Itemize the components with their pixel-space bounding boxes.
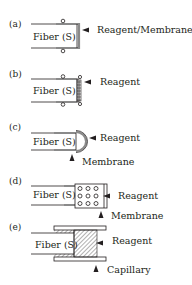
fiber-label: Fiber (S) <box>33 189 76 200</box>
o-ring-tip-top-icon <box>78 75 81 78</box>
panel-d: (d) Fiber (S) Reagent Membrane <box>9 176 164 221</box>
adhesive-top <box>54 230 74 233</box>
panel-e: (e) Fiber (S) Reagent Capillary <box>9 222 152 275</box>
annotation-reagent: Reagent <box>118 190 158 201</box>
panel-a: (a) Fiber (S) Reagent/Membrane <box>9 19 192 53</box>
o-ring-tip-bottom-icon <box>78 102 81 105</box>
reagent-chamber <box>75 184 107 208</box>
reagent-beads <box>78 81 80 101</box>
panel-letter: (a) <box>9 19 21 29</box>
annotation-reagent: Reagent <box>112 235 152 246</box>
annotation-reagent-membrane: Reagent/Membrane <box>97 24 192 35</box>
o-ring-top-icon <box>61 19 65 23</box>
o-ring-bottom-icon <box>61 49 65 53</box>
o-ring-bottom-icon <box>61 103 65 107</box>
arrow-up-icon <box>99 211 104 218</box>
arrow-pointer-icon <box>84 80 91 85</box>
panel-letter: (b) <box>9 69 22 79</box>
membrane-dome <box>76 132 86 151</box>
panel-letter: (d) <box>9 176 22 186</box>
annotation-membrane: Membrane <box>82 156 135 167</box>
arrow-pointer-icon <box>89 136 96 141</box>
capillary-wall-bottom <box>54 257 106 261</box>
annotation-capillary: Capillary <box>107 264 151 275</box>
arrow-pointer-icon <box>82 28 89 33</box>
o-ring-top-icon <box>61 75 65 79</box>
capillary-wall-top <box>54 226 106 230</box>
fiber-label: Fiber (S) <box>33 136 76 147</box>
fiber-label: Fiber (S) <box>33 31 76 42</box>
annotation-membrane: Membrane <box>111 210 164 221</box>
panel-letter: (c) <box>9 122 21 132</box>
reagent-beads <box>78 187 98 206</box>
fiber-label: Fiber (S) <box>35 239 78 250</box>
fiber-sensor-diagram: (a) Fiber (S) Reagent/Membrane (b) Fiber… <box>0 0 192 285</box>
panel-letter: (e) <box>9 222 21 232</box>
annotation-reagent: Reagent <box>100 76 140 87</box>
adhesive-bottom <box>54 254 74 257</box>
panel-b: (b) Fiber (S) Reagent <box>9 69 140 106</box>
annotation-reagent: Reagent <box>100 132 140 143</box>
arrow-up-icon <box>94 265 99 272</box>
fiber-label: Fiber (S) <box>33 85 76 96</box>
arrow-up-icon <box>70 154 75 161</box>
panel-c: (c) Fiber (S) Reagent Membrane <box>9 122 140 167</box>
